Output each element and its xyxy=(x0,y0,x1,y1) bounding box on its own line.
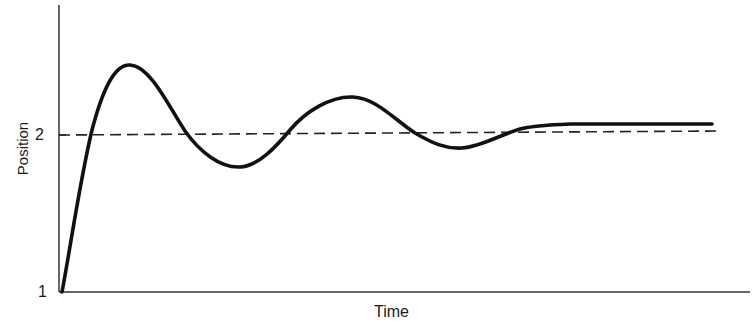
y-axis-label: Position xyxy=(14,119,31,179)
position-response-curve xyxy=(62,65,712,292)
y-tick-label-1: 1 xyxy=(38,283,47,301)
x-axis-label: Time xyxy=(374,303,409,321)
y-tick-label-2: 2 xyxy=(35,126,44,144)
setpoint-dashed-line xyxy=(59,131,722,135)
